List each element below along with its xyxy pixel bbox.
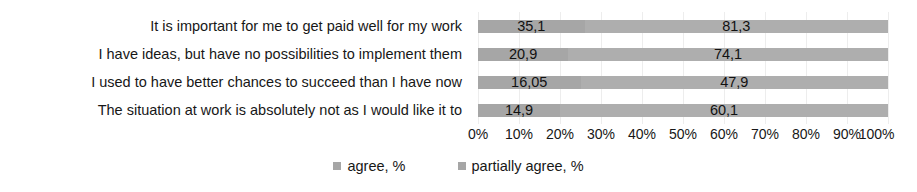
x-tick-label: 80%: [792, 126, 820, 142]
bar-value-agree: 20,9: [509, 47, 537, 62]
bar-rows: 35,1 81,3 20,9 74,1: [478, 12, 888, 124]
stacked-bar: 16,05 47,9: [478, 76, 888, 89]
bar-segment-agree: 16,05: [478, 76, 581, 89]
bar-segment-partially-agree: 81,3: [585, 20, 888, 33]
bar-value-partially-agree: 74,1: [714, 47, 742, 62]
stacked-bar-chart: It is important for me to get paid well …: [0, 0, 917, 192]
bar-value-agree: 35,1: [517, 19, 545, 34]
x-tick-label: 30%: [587, 126, 615, 142]
legend-item-partially-agree[interactable]: partially agree, %: [458, 158, 584, 174]
bar-segment-agree: 35,1: [478, 20, 585, 33]
x-tick-label: 10%: [505, 126, 533, 142]
bar-value-partially-agree: 81,3: [722, 19, 750, 34]
legend-label: agree, %: [347, 158, 405, 174]
legend-label: partially agree, %: [472, 158, 584, 174]
bar-segment-agree: 14,9: [478, 104, 560, 117]
category-axis: It is important for me to get paid well …: [0, 12, 470, 124]
legend-swatch-icon: [333, 162, 341, 170]
stacked-bar: 20,9 74,1: [478, 48, 888, 61]
x-tick-label: 20%: [546, 126, 574, 142]
bar-segment-partially-agree: 47,9: [581, 76, 889, 89]
category-label: It is important for me to get paid well …: [0, 12, 470, 40]
chart-legend: agree, % partially agree, %: [0, 158, 917, 174]
x-tick-label: 0%: [468, 126, 488, 142]
stacked-bar: 35,1 81,3: [478, 20, 888, 33]
bar-row: 20,9 74,1: [478, 40, 888, 68]
bar-value-agree: 16,05: [511, 75, 547, 90]
bar-segment-agree: 20,9: [478, 48, 568, 61]
bar-segment-partially-agree: 74,1: [568, 48, 888, 61]
x-tick-label: 40%: [628, 126, 656, 142]
legend-swatch-icon: [458, 162, 466, 170]
bar-segment-partially-agree: 60,1: [560, 104, 888, 117]
x-tick-label: 60%: [710, 126, 738, 142]
category-label: I have ideas, but have no possibilities …: [0, 40, 470, 68]
bar-row: 35,1 81,3: [478, 12, 888, 40]
legend-item-agree[interactable]: agree, %: [333, 158, 405, 174]
category-label: The situation at work is absolutely not …: [0, 96, 470, 124]
stacked-bar: 14,9 60,1: [478, 104, 888, 117]
bar-value-partially-agree: 47,9: [720, 75, 748, 90]
x-tick-label: 90%: [833, 126, 861, 142]
x-tick-label: 70%: [751, 126, 779, 142]
bar-value-agree: 14,9: [505, 103, 533, 118]
x-tick-label: 50%: [669, 126, 697, 142]
x-tick-label: 100%: [859, 126, 895, 142]
bar-row: 14,9 60,1: [478, 96, 888, 124]
x-axis: 0% 10% 20% 30% 40% 50% 60% 70% 80% 90% 1…: [478, 126, 888, 146]
bar-value-partially-agree: 60,1: [710, 103, 738, 118]
category-label: I used to have better chances to succeed…: [0, 68, 470, 96]
plot-area: 35,1 81,3 20,9 74,1: [478, 12, 888, 124]
bar-row: 16,05 47,9: [478, 68, 888, 96]
